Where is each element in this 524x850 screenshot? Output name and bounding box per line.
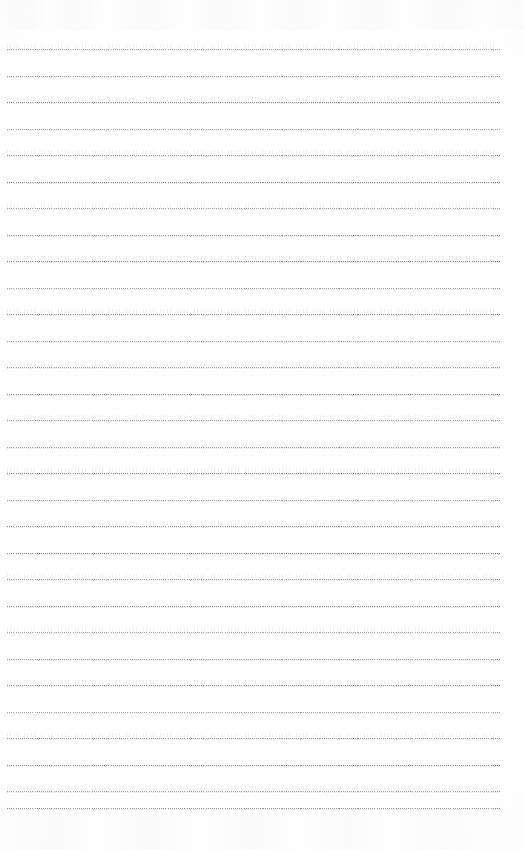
scanned-page xyxy=(0,0,524,850)
rule-line xyxy=(7,712,500,713)
rule-line xyxy=(7,182,500,183)
rule-line xyxy=(7,314,500,315)
rule-line xyxy=(7,288,500,289)
rule-line xyxy=(7,129,500,130)
rule-line xyxy=(7,76,500,77)
rule-line xyxy=(7,632,500,633)
rule-line xyxy=(7,808,500,809)
rule-line xyxy=(7,341,500,342)
ruled-lines-layer xyxy=(0,0,524,850)
rule-line xyxy=(7,367,500,368)
rule-line xyxy=(7,579,500,580)
rule-line xyxy=(7,526,500,527)
rule-line xyxy=(7,208,500,209)
rule-line xyxy=(7,738,500,739)
rule-line xyxy=(7,155,500,156)
rule-line xyxy=(7,261,500,262)
rule-line xyxy=(7,102,500,103)
rule-line xyxy=(7,500,500,501)
rule-line xyxy=(7,791,500,792)
rule-line xyxy=(7,473,500,474)
rule-line xyxy=(7,49,500,50)
rule-line xyxy=(7,685,500,686)
rule-line xyxy=(7,765,500,766)
rule-line xyxy=(7,606,500,607)
rule-line xyxy=(7,447,500,448)
rule-line xyxy=(7,553,500,554)
rule-line xyxy=(7,394,500,395)
rule-line xyxy=(7,659,500,660)
rule-line xyxy=(7,420,500,421)
rule-line xyxy=(7,235,500,236)
